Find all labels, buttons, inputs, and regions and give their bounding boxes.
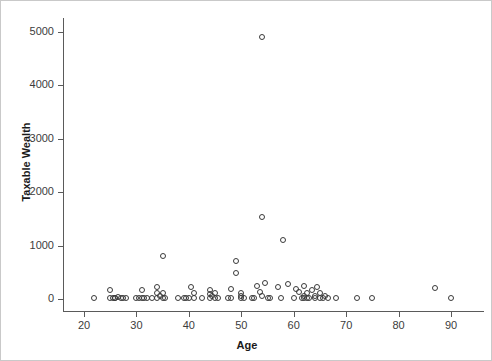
x-tick-mark [241, 312, 242, 317]
x-tick-label: 60 [274, 319, 314, 331]
data-point [432, 285, 438, 291]
data-point [325, 295, 331, 301]
data-point [301, 283, 307, 289]
x-tick-label: 70 [326, 319, 366, 331]
data-point [251, 295, 257, 301]
y-tick-mark [58, 32, 63, 33]
data-point [191, 295, 197, 301]
y-tick-label: 1000 [8, 240, 54, 251]
data-point [241, 295, 247, 301]
data-point [139, 287, 145, 293]
x-tick-mark [189, 312, 190, 317]
data-point [259, 214, 265, 220]
x-tick-mark [84, 312, 85, 317]
data-point [160, 253, 166, 259]
data-point [107, 287, 113, 293]
data-point [162, 295, 168, 301]
data-point [233, 270, 239, 276]
y-tick-label-wrap: 5000 [1, 26, 54, 37]
data-point [280, 237, 286, 243]
data-point [154, 284, 160, 290]
y-tick-label: 0 [8, 293, 54, 304]
data-point [369, 295, 375, 301]
y-tick-mark [58, 246, 63, 247]
y-tick-mark [58, 192, 63, 193]
data-point [285, 281, 291, 287]
x-tick-mark [451, 312, 452, 317]
data-point [254, 283, 260, 289]
x-axis-title: Age [1, 339, 492, 351]
data-point [228, 295, 234, 301]
y-tick-label-wrap: 4000 [1, 79, 54, 90]
y-tick-mark [58, 299, 63, 300]
x-tick-mark [294, 312, 295, 317]
x-tick-mark [136, 312, 137, 317]
x-tick-label: 20 [64, 319, 104, 331]
data-point [275, 284, 281, 290]
data-point [267, 295, 273, 301]
x-tick-label: 50 [221, 319, 261, 331]
x-tick-mark [346, 312, 347, 317]
data-point [199, 295, 205, 301]
data-point [291, 295, 297, 301]
data-point [188, 284, 194, 290]
plot-area: 010002000300040005000 2030405060708090 T… [1, 1, 492, 361]
data-point [233, 258, 239, 264]
y-tick-mark [58, 139, 63, 140]
x-tick-label: 30 [116, 319, 156, 331]
data-point [448, 295, 454, 301]
data-point [228, 286, 234, 292]
y-axis-line [63, 18, 64, 311]
y-tick-label-wrap: 0 [1, 293, 54, 304]
data-point [215, 295, 221, 301]
scatter-plot-figure: 010002000300040005000 2030405060708090 T… [0, 0, 492, 361]
y-tick-label-wrap: 1000 [1, 240, 54, 251]
data-point [314, 284, 320, 290]
x-tick-label: 40 [169, 319, 209, 331]
data-point [91, 295, 97, 301]
y-tick-label: 4000 [8, 79, 54, 90]
data-point [333, 295, 339, 301]
x-tick-label: 90 [431, 319, 471, 331]
y-axis-title: Taxable Wealth [20, 92, 32, 232]
x-tick-mark [399, 312, 400, 317]
data-point [354, 295, 360, 301]
data-point [123, 295, 129, 301]
y-tick-label: 5000 [8, 26, 54, 37]
data-point [262, 280, 268, 286]
y-tick-mark [58, 85, 63, 86]
x-tick-label: 80 [379, 319, 419, 331]
data-point [278, 295, 284, 301]
data-point [259, 34, 265, 40]
x-axis-line [63, 311, 484, 312]
